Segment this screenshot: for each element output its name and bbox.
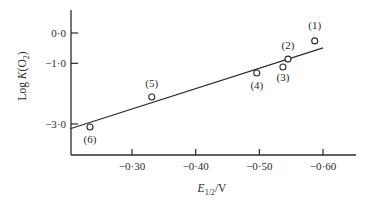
- x-ticks: −0·30−0·40−0·50−0·60: [119, 149, 337, 172]
- y-tick-label: −3·0: [45, 118, 66, 130]
- data-point-label: (3): [276, 71, 289, 84]
- x-tick-label: −0·50: [246, 160, 273, 172]
- x-tick-label: −0·40: [182, 160, 209, 172]
- data-point-marker: [280, 64, 286, 70]
- y-tick-label: −1·0: [45, 57, 66, 69]
- data-point-label: (4): [250, 79, 263, 92]
- x-tick-label: −0·30: [119, 160, 146, 172]
- data-point-label: (5): [145, 77, 158, 90]
- data-point-marker: [285, 56, 291, 62]
- data-point-marker: [312, 38, 318, 44]
- data-point-label: (1): [308, 19, 321, 32]
- x-axis-title: E1/2/V: [197, 182, 227, 197]
- data-point-marker: [254, 70, 260, 76]
- data-point-label: (2): [282, 39, 295, 52]
- x-tick-label: −0·60: [310, 160, 337, 172]
- data-point-marker: [149, 94, 155, 100]
- data-points: (1)(2)(3)(4)(5)(6): [84, 19, 322, 146]
- plot-area: −0·30−0·40−0·50−0·60 0·0−1·0−3·0 (1)(2)(…: [45, 10, 356, 172]
- y-ticks: 0·0−1·0−3·0: [45, 27, 78, 130]
- chart: −0·30−0·40−0·50−0·60 0·0−1·0−3·0 (1)(2)(…: [0, 0, 372, 205]
- y-tick-label: 0·0: [51, 27, 66, 39]
- data-point-marker: [87, 124, 93, 130]
- data-point-label: (6): [84, 133, 97, 146]
- y-axis-title: Log K(O2): [16, 51, 31, 100]
